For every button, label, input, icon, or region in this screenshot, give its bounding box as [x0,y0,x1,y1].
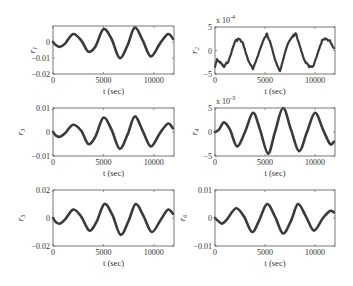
y-axis-label: r1 [27,47,38,54]
x-axis-label: t (sec) [264,86,285,96]
x-axis-label: t (sec) [264,258,285,268]
y-axis-label: r3 [15,129,26,136]
y-axis-label: r5 [15,215,26,222]
x-tick-label: 10000 [144,158,164,167]
y-axis-label: r6 [177,215,188,222]
axis-exponent-label: x 10-4 [216,14,235,25]
x-tick-label: 10000 [305,76,325,85]
x-axis-label: t (sec) [103,86,124,96]
line-series-r3 [53,116,173,148]
x-tick-label: 5000 [95,158,111,167]
y-tick-label: 0 [208,47,212,56]
subplot-r5: 05000100000.020−0.02t (sec)r5 [15,186,174,268]
y-tick-label: 0.02 [36,186,50,195]
subplot-r2: 050001000050−5t (sec)r2x 10-4 [189,14,335,96]
y-tick-label: −5 [203,152,212,161]
y-axis-label: r4 [189,129,200,136]
x-tick-label: 5000 [95,248,111,257]
subplot-r6: 05000100000.010−0.01t (sec)r6 [177,186,335,268]
line-series-r5 [53,204,173,235]
y-tick-label: 0 [208,128,212,137]
y-axis-label: r2 [189,47,200,54]
x-tick-label: 10000 [305,248,325,257]
subplot-r1: 05000100000−0.01−0.02t (sec)r1 [27,26,174,96]
y-tick-label: −0.01 [31,54,50,63]
x-tick-label: 10000 [144,248,164,257]
y-tick-label: 0 [208,214,212,223]
y-tick-label: 0.01 [198,186,212,195]
y-tick-label: −0.01 [193,242,212,251]
subplot-r3: 05000100000.010−0.01t (sec)r3 [15,104,174,178]
x-tick-label: 0 [51,76,55,85]
line-series-r4 [215,108,334,154]
x-tick-label: 5000 [257,158,273,167]
x-tick-label: 0 [213,76,217,85]
x-tick-label: 10000 [144,76,164,85]
x-tick-label: 0 [51,158,55,167]
x-axis-label: t (sec) [264,168,285,178]
y-tick-label: 0 [46,38,50,47]
y-tick-label: −0.02 [31,242,50,251]
y-tick-label: 0 [46,128,50,137]
y-tick-label: 5 [208,23,212,32]
line-series-r6 [215,204,334,233]
y-tick-label: −0.01 [31,152,50,161]
figure: 05000100000−0.01−0.02t (sec)r10500010000… [0,0,353,286]
y-tick-label: −5 [203,70,212,79]
x-tick-label: 5000 [257,248,273,257]
y-tick-label: −0.02 [31,70,50,79]
y-tick-label: 0 [46,214,50,223]
x-tick-label: 0 [213,248,217,257]
y-tick-label: 5 [208,104,212,113]
subplot-r4: 050001000050−5t (sec)r4x 10-3 [189,95,335,178]
x-tick-label: 5000 [95,76,111,85]
y-tick-label: 0.01 [36,104,50,113]
line-series-r2 [215,33,334,71]
axis-exponent-label: x 10-3 [216,95,235,106]
x-axis-label: t (sec) [103,168,124,178]
x-axis-label: t (sec) [103,258,124,268]
x-tick-label: 0 [51,248,55,257]
x-tick-label: 5000 [257,76,273,85]
x-tick-label: 0 [213,158,217,167]
x-tick-label: 10000 [305,158,325,167]
line-series-r1 [53,28,173,59]
